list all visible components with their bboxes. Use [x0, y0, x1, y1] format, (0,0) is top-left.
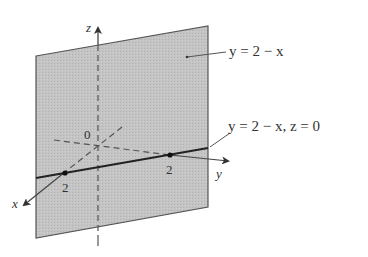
x-intercept-point: [62, 170, 67, 175]
plane-label-leader-dot: [186, 56, 189, 59]
plane-equation-label: y = 2 − x: [229, 43, 284, 59]
y-intercept-point: [167, 152, 172, 157]
origin-label: 0: [84, 127, 91, 142]
plane-diagram: z y x 0 2 2 y = 2 − x y = 2 − x, z = 0: [0, 0, 368, 257]
x-axis-label: x: [11, 196, 18, 211]
trace-equation-label: y = 2 − x, z = 0: [228, 118, 320, 134]
z-axis-label: z: [85, 20, 91, 35]
y-axis-label: y: [214, 166, 222, 181]
x-tick-label: 2: [62, 180, 69, 195]
trace-label-leader: [210, 133, 230, 147]
plane-y-equals-2-minus-x: [36, 26, 208, 238]
y-tick-label: 2: [166, 162, 173, 177]
